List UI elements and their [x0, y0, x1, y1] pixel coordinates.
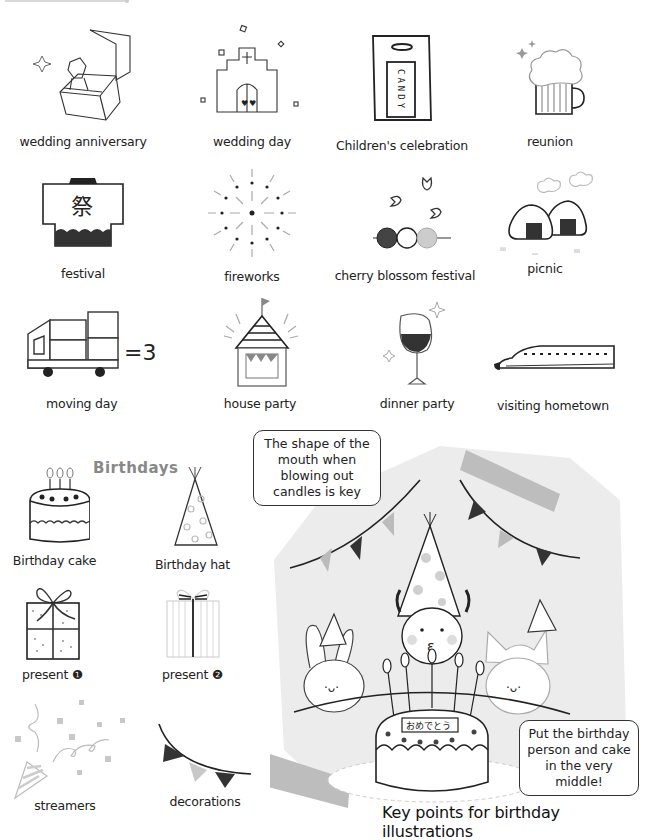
svg-text:♥: ♥ — [241, 99, 248, 108]
svg-text:祭: 祭 — [71, 194, 93, 219]
event-label: moving day — [20, 396, 160, 411]
bullet-train-icon — [490, 340, 616, 380]
onigiri-icon: ııııııııı — [490, 165, 600, 255]
event-label: picnic — [485, 261, 605, 276]
birthday-label: streamers — [5, 798, 125, 813]
svg-text:CANDY: CANDY — [396, 69, 406, 111]
event-label: dinner party — [362, 396, 472, 411]
event-label: cherry blossom festival — [330, 268, 480, 283]
svg-text:·ᴗ·: ·ᴗ· — [506, 681, 521, 695]
happi-coat-icon: 祭 — [33, 172, 133, 252]
event-wedding-day: ♥♥ wedding day — [192, 22, 312, 149]
present-bow-icon — [23, 583, 83, 663]
event-label: wedding anniversary — [18, 134, 148, 149]
fireworks-icon — [204, 165, 300, 261]
event-cherry-blossom-festival: cherry blossom festival — [330, 172, 480, 283]
event-fireworks: fireworks — [192, 165, 312, 284]
event-festival: 祭 festival — [18, 172, 148, 281]
birthday-label: Birthday cake — [12, 553, 97, 568]
birthday-decorations: decorations — [155, 720, 255, 809]
svg-text:おめでとう: おめでとう — [406, 721, 451, 731]
event-wedding-anniversary: wedding anniversary — [18, 22, 148, 149]
scene-caption: Key points for birthday illustrations — [382, 803, 647, 840]
tip-bubble-mouth: The shape of the mouth when blowing out … — [253, 430, 381, 506]
birthday-label: present ❷ — [150, 667, 235, 682]
event-childrens-celebration: CANDY Children's celebration — [332, 22, 472, 153]
svg-text:·ᴗ·: ·ᴗ· — [324, 681, 339, 695]
event-reunion: reunion — [495, 22, 605, 149]
birthday-present-2: present ❷ — [150, 583, 235, 682]
birthday-label: present ❶ — [10, 667, 95, 682]
svg-text:♥: ♥ — [249, 99, 256, 108]
event-label: reunion — [495, 134, 605, 149]
event-label: wedding day — [192, 134, 312, 149]
event-moving-day: =3 moving day — [20, 308, 160, 411]
top-rule — [5, 0, 127, 2]
birthday-label: Birthday hat — [150, 557, 235, 572]
event-label: house party — [200, 396, 320, 411]
event-label: Children's celebration — [332, 138, 472, 153]
event-house-party: house party — [200, 296, 320, 411]
event-label: festival — [18, 266, 148, 281]
birthday-cake-icon — [20, 465, 90, 545]
candy-bag-icon: CANDY — [367, 22, 437, 124]
birthday-hat: Birthday hat — [150, 465, 235, 572]
wine-glass-icon — [377, 296, 457, 390]
tip-bubble-center: Put the birthday person and cake in the … — [519, 720, 639, 796]
moving-truck-icon: =3 — [20, 308, 160, 378]
event-visiting-hometown: visiting hometown — [488, 340, 618, 413]
birthday-label: decorations — [155, 794, 255, 809]
svg-text:ııı: ııı — [532, 251, 538, 255]
party-popper-icon — [5, 700, 125, 800]
event-label: visiting hometown — [488, 398, 618, 413]
ring-box-icon — [28, 22, 138, 122]
dango-petals-icon — [355, 172, 455, 252]
birthday-streamers: streamers — [5, 700, 125, 813]
chapel-icon: ♥♥ — [197, 22, 307, 122]
svg-text:ııı: ııı — [500, 245, 506, 253]
striped-present-icon — [163, 583, 223, 663]
event-label: fireworks — [192, 269, 312, 284]
birthday-cake: Birthday cake — [12, 465, 97, 568]
event-picnic: ııııııııı picnic — [485, 165, 605, 276]
party-hat-icon — [163, 465, 223, 551]
beer-mug-icon — [500, 22, 600, 122]
svg-text:=3: =3 — [124, 340, 156, 365]
birthday-present-1: present ❶ — [10, 583, 95, 682]
svg-text:ııı: ııı — [574, 247, 580, 255]
party-house-icon — [210, 296, 310, 390]
bunting-icon — [155, 720, 255, 790]
event-dinner-party: dinner party — [362, 296, 472, 411]
